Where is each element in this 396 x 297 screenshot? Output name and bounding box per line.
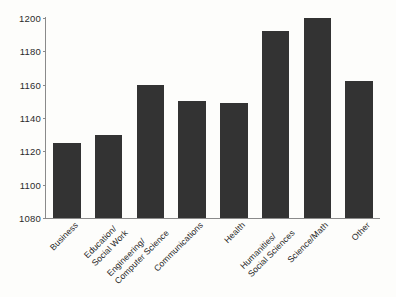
bar xyxy=(220,103,248,218)
y-axis-tick-label: 1120 xyxy=(20,146,41,157)
bar xyxy=(304,18,332,218)
y-axis-tick-label: 1140 xyxy=(20,113,41,124)
y-axis-tick-label: 1080 xyxy=(19,213,41,224)
bar-series xyxy=(46,18,380,218)
bar xyxy=(137,85,165,218)
x-axis-tick-label: Health xyxy=(222,220,247,245)
x-axis-tick-label: Business xyxy=(48,220,81,253)
x-axis-tick-label-line1: Health xyxy=(222,220,247,245)
x-axis-tick-label: Science/Math xyxy=(286,220,331,265)
x-axis-line xyxy=(45,218,380,219)
bar xyxy=(95,135,123,218)
x-axis-tick-label-line1: Other xyxy=(350,220,373,243)
bar xyxy=(53,143,81,218)
bar-chart: 1080110011201140116011801200 BusinessEdu… xyxy=(0,0,396,297)
y-axis-tick-mark xyxy=(43,218,46,219)
bar xyxy=(178,101,206,218)
y-axis-tick-labels: 1080110011201140116011801200 xyxy=(0,0,41,297)
x-axis-tick-label-line1: Business xyxy=(48,220,80,252)
bar xyxy=(262,31,290,218)
x-axis-tick-labels: BusinessEducation/Social WorkEngineering… xyxy=(46,220,380,297)
y-axis-tick-label: 1160 xyxy=(20,79,41,90)
y-axis-tick-label: 1180 xyxy=(20,46,41,57)
x-axis-tick-label: Other xyxy=(350,220,373,243)
y-axis-tick-label: 1200 xyxy=(19,13,41,24)
y-axis-tick-label: 1100 xyxy=(20,179,41,190)
bar xyxy=(345,81,373,218)
x-axis-tick-label: Humanities/Social Sciences xyxy=(238,220,297,279)
x-axis-tick-label-line1: Science/Math xyxy=(286,220,331,265)
